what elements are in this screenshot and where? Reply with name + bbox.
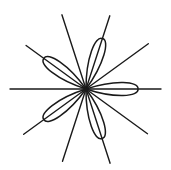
rose-diagram	[0, 0, 171, 170]
